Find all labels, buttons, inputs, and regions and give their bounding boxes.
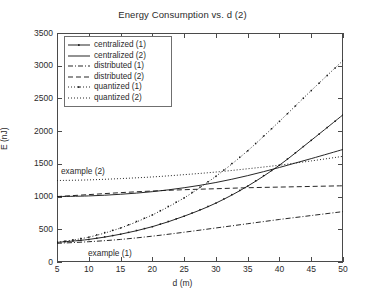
legend-item[interactable]: quantized (1) <box>67 82 168 93</box>
data-point-marker <box>72 239 74 241</box>
data-point-marker <box>183 216 185 218</box>
annotation-example-2: example (2) <box>61 166 105 176</box>
data-point-marker <box>112 230 114 232</box>
data-point-marker <box>96 234 98 236</box>
data-point-marker <box>263 175 265 177</box>
data-point-marker <box>311 140 313 142</box>
legend-item-label: centralized (1) <box>91 40 146 50</box>
data-point-marker <box>303 146 305 148</box>
data-point-marker <box>96 237 98 239</box>
y-axis-label: E (nJ) <box>0 127 9 150</box>
data-point-marker <box>247 150 249 152</box>
legend-item[interactable]: distributed (2) <box>67 72 168 83</box>
series-line <box>57 114 343 243</box>
data-point-marker <box>88 236 90 238</box>
x-tick-label: 35 <box>233 265 263 274</box>
data-point-marker <box>128 232 130 234</box>
x-tick-mark <box>343 257 344 262</box>
chart-title: Energy Consumption vs. d (2) <box>0 9 365 20</box>
data-point-marker <box>255 143 257 145</box>
data-point-marker <box>311 90 313 92</box>
data-point-marker <box>207 181 209 183</box>
data-point-marker <box>175 218 177 220</box>
data-point-marker <box>239 190 241 192</box>
data-point-marker <box>136 230 138 232</box>
x-tick-label: 45 <box>296 265 326 274</box>
data-point-marker <box>144 228 146 230</box>
legend-item[interactable]: centralized (1) <box>67 40 168 51</box>
data-point-marker <box>271 128 273 129</box>
data-point-marker <box>247 185 249 187</box>
x-tick-label: 30 <box>201 265 231 274</box>
data-point-marker <box>168 221 170 223</box>
data-point-marker <box>183 197 185 199</box>
legend-item-label: distributed (1) <box>91 61 144 71</box>
data-point-marker <box>160 223 162 225</box>
series-line <box>57 212 343 244</box>
data-point-marker <box>342 60 343 62</box>
data-point-marker <box>326 75 328 77</box>
data-point-marker <box>104 232 106 234</box>
x-tick-label: 25 <box>169 265 199 274</box>
legend-item-label: quantized (1) <box>91 82 142 92</box>
legend-line-swatch <box>67 72 91 82</box>
y-tick-label: 1500 <box>19 159 53 168</box>
data-point-marker <box>160 210 162 212</box>
x-tick-label: 50 <box>328 265 358 274</box>
data-point-marker <box>80 239 82 241</box>
y-tick-mark <box>57 262 62 263</box>
data-point-marker <box>207 206 209 208</box>
data-point-marker <box>231 163 233 165</box>
data-point-marker <box>88 239 90 241</box>
data-point-marker <box>136 221 138 223</box>
data-point-marker <box>199 209 201 211</box>
legend-item[interactable]: distributed (1) <box>67 61 168 72</box>
y-tick-label: 2000 <box>19 127 53 136</box>
data-point-marker <box>104 236 106 238</box>
data-point-marker <box>199 186 201 188</box>
x-tick-label: 40 <box>264 265 294 274</box>
legend: centralized (1)centralized (2)distribute… <box>64 36 172 107</box>
legend-item-label: quantized (2) <box>91 93 142 103</box>
data-point-marker <box>295 105 297 107</box>
data-point-marker <box>279 121 281 123</box>
legend-item-label: centralized (2) <box>91 51 146 61</box>
data-point-marker <box>303 98 305 100</box>
data-point-marker <box>144 217 146 219</box>
y-tick-mark <box>338 262 343 263</box>
data-point-marker <box>152 214 154 216</box>
x-axis-label: d (m) <box>0 278 365 288</box>
data-point-marker <box>168 206 170 208</box>
data-point-marker <box>175 201 177 203</box>
y-tick-label: 2500 <box>19 94 53 103</box>
legend-line-swatch <box>67 61 91 71</box>
legend-line-swatch <box>67 40 91 50</box>
figure-container: Energy Consumption vs. d (2) E (nJ) d (m… <box>0 0 365 300</box>
data-point-marker <box>326 127 328 129</box>
data-point-marker <box>128 224 130 226</box>
legend-item-label: distributed (2) <box>91 72 144 82</box>
data-point-marker <box>80 238 82 240</box>
annotation-example-1: example (1) <box>88 248 132 258</box>
data-point-marker <box>223 198 225 200</box>
x-tick-mark <box>343 33 344 38</box>
y-tick-label: 1000 <box>19 192 53 201</box>
data-point-marker <box>334 67 336 69</box>
data-point-marker <box>57 242 58 244</box>
data-point-marker <box>318 82 320 84</box>
legend-item[interactable]: quantized (2) <box>67 93 168 104</box>
data-point-marker <box>334 120 336 122</box>
legend-line-swatch <box>67 51 91 61</box>
data-point-marker <box>223 169 225 171</box>
data-point-marker <box>64 240 66 242</box>
data-point-marker <box>263 135 265 137</box>
y-tick-label: 500 <box>19 225 53 234</box>
data-point-marker <box>191 212 193 214</box>
x-tick-label: 20 <box>137 265 167 274</box>
data-point-marker <box>215 202 217 204</box>
data-point-marker <box>231 194 233 196</box>
y-tick-label: 3500 <box>19 29 53 38</box>
data-point-marker <box>120 227 122 229</box>
data-point-marker <box>120 233 122 235</box>
legend-item[interactable]: centralized (2) <box>67 51 168 62</box>
